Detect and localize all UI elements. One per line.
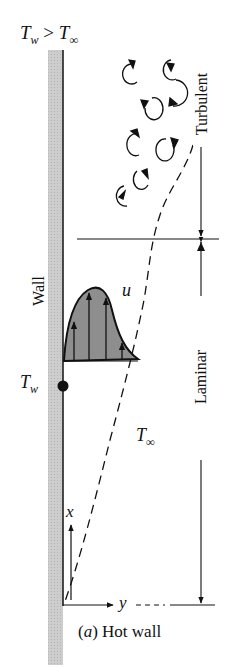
symbol-T: T	[20, 372, 30, 392]
thermal-boundary-dashed-line	[64, 145, 193, 604]
eddy-icon	[141, 98, 163, 120]
eddy-icon	[123, 60, 137, 84]
subscript-inf: ∞	[69, 33, 78, 47]
subscript-w: w	[30, 382, 38, 396]
velocity-label: u	[122, 280, 131, 301]
wall-fill	[48, 50, 63, 665]
wall-label: Wall	[30, 271, 48, 311]
subscript-inf: ∞	[146, 435, 155, 449]
x-axis-label: x	[66, 502, 74, 522]
greater-than: >	[39, 22, 59, 43]
symbol-T-inf: T	[59, 22, 70, 43]
subscript-w: w	[31, 33, 39, 47]
laminar-region-label: Laminar	[192, 344, 210, 410]
ambient-temperature-label: T∞	[136, 425, 155, 450]
y-axis-label: y	[119, 593, 127, 613]
condition-label: Tw > T∞	[20, 22, 78, 48]
eddy-icon	[116, 186, 127, 206]
eddy-icon	[156, 138, 178, 161]
wall-temperature-point	[58, 381, 69, 392]
wall	[48, 50, 63, 665]
symbol-T: T	[136, 425, 146, 445]
eddy-icon	[163, 60, 176, 80]
caption-text: Hot wall	[98, 622, 161, 641]
turbulent-eddies	[116, 60, 187, 206]
turbulent-region-label: Turbulent	[193, 62, 211, 146]
eddy-icon	[127, 129, 139, 156]
wall-temperature-label: Tw	[20, 372, 38, 397]
eddy-icon	[133, 169, 148, 189]
symbol-T: T	[20, 22, 31, 43]
laminar-arrowhead-up	[197, 242, 205, 251]
eddy-icon	[169, 80, 188, 106]
figure-caption: (a) Hot wall	[78, 622, 161, 642]
caption-letter: a	[84, 622, 93, 641]
